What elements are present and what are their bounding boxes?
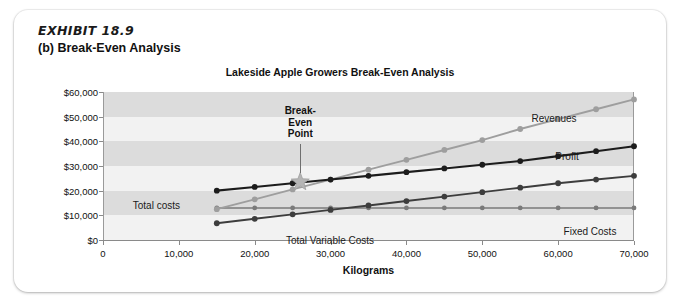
chart-area: $0$10,000$20,000$30,000$40,000$50,000$60…	[14, 10, 666, 292]
y-axis-line	[103, 92, 104, 241]
x-axis-tick-label: 40,000	[376, 248, 436, 259]
x-axis-tick-mark	[179, 241, 180, 245]
y-axis-tick-mark	[99, 215, 103, 216]
y-axis-tick-label: $50,000	[36, 111, 98, 122]
exhibit-card: EXHIBIT 18.9 (b) Break-Even Analysis Lak…	[14, 10, 666, 292]
break-even-annotation-line: Break-	[260, 105, 340, 117]
break-even-annotation-line: Point	[260, 128, 340, 140]
y-axis-tick-mark	[99, 191, 103, 192]
x-axis-tick-mark	[255, 241, 256, 245]
x-axis-tick-mark	[634, 241, 635, 245]
y-axis-tick-mark	[99, 166, 103, 167]
x-axis-tick-mark	[103, 241, 104, 245]
series-label-total-costs: Total costs	[14, 200, 180, 211]
break-even-leader-line	[300, 144, 301, 173]
y-axis-tick-mark	[99, 117, 103, 118]
y-axis-tick-label: $20,000	[36, 185, 98, 196]
y-axis-tick-mark	[99, 141, 103, 142]
break-even-annotation-line: Even	[260, 117, 340, 129]
y-axis-tick-label: $40,000	[36, 136, 98, 147]
y-axis-tick-label: $30,000	[36, 161, 98, 172]
x-axis-tick-mark	[558, 241, 559, 245]
y-axis-tick-label: $0	[36, 235, 98, 246]
series-label-total-variable-costs: Total Variable Costs	[260, 235, 400, 246]
y-axis-tick-label: $10,000	[36, 210, 98, 221]
y-axis-tick-label: $60,000	[36, 87, 98, 98]
x-axis-tick-label: 70,000	[604, 248, 664, 259]
x-axis-tick-label: 10,000	[149, 248, 209, 259]
x-axis-title: Kilograms	[103, 264, 634, 276]
series-label-revenues: Revenues	[484, 113, 624, 124]
x-axis-tick-label: 20,000	[225, 248, 285, 259]
x-axis-tick-label: 30,000	[301, 248, 361, 259]
break-even-annotation: Break-EvenPoint	[260, 105, 340, 140]
x-axis-tick-label: 0	[73, 248, 133, 259]
x-axis-tick-label: 50,000	[452, 248, 512, 259]
x-axis-tick-mark	[406, 241, 407, 245]
series-label-fixed-costs: Fixed Costs	[520, 226, 660, 237]
grid-band	[103, 191, 634, 216]
x-axis-tick-mark	[482, 241, 483, 245]
y-axis-tick-mark	[99, 92, 103, 93]
plot-right-border	[633, 92, 634, 241]
series-label-profit: Profit	[497, 151, 637, 162]
x-axis-tick-label: 60,000	[528, 248, 588, 259]
